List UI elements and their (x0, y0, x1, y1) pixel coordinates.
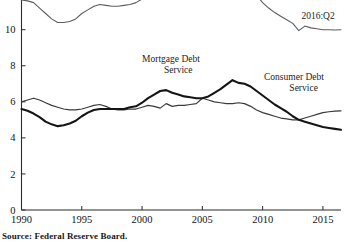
annotation-consumer-debt: Consumer Debt (264, 72, 324, 82)
annotation-service: Service (289, 83, 318, 93)
y-axis-tick-label: 8 (10, 60, 15, 71)
annotation-2016-q2: 2016:Q2 (301, 11, 335, 21)
y-axis-tick-labels: 024681012 (5, 0, 16, 216)
x-axis-tick-label: 2005 (192, 214, 213, 225)
y-axis-tick-label: 4 (10, 132, 16, 143)
series-line-total-debt-service (22, 0, 342, 31)
series-annotations-group: 2016:Q2ServiceMortgage DebtServiceConsum… (101, 0, 335, 93)
x-axis-tick-label: 1995 (71, 214, 92, 225)
x-axis-tick-labels: 199019952000200520102015 (11, 214, 333, 225)
annotation-mortgage-debt: Mortgage Debt (142, 54, 200, 64)
x-axis-tick-label: 1990 (11, 214, 32, 225)
x-axis-tick-label: 2010 (252, 214, 273, 225)
debt-service-chart: 024681012 199019952000200520102015 2016:… (0, 0, 344, 242)
y-axis-tick-label: 10 (5, 24, 16, 35)
chart-canvas: 024681012 199019952000200520102015 2016:… (0, 0, 344, 242)
source-note: Source: Federal Reserve Board. (2, 231, 127, 241)
x-axis-tick-label: 2000 (132, 214, 153, 225)
y-axis-tick-label: 2 (10, 169, 15, 180)
tick-marks-group (22, 0, 323, 210)
y-axis-tick-label: 6 (10, 96, 15, 107)
x-axis-tick-label: 2015 (312, 214, 333, 225)
annotation-service: Service (164, 65, 193, 75)
